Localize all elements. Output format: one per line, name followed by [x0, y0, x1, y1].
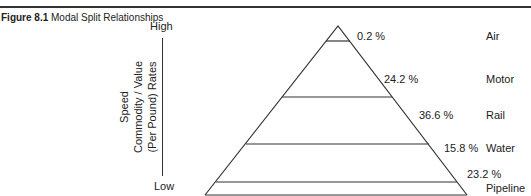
mode-water: Water — [486, 142, 515, 154]
pyramid-diagram — [0, 0, 531, 196]
pct-motor: 24.2 % — [384, 73, 418, 85]
mode-rail: Rail — [486, 109, 505, 121]
pct-air: 0.2 % — [357, 30, 385, 42]
mode-air: Air — [486, 30, 499, 42]
mode-motor: Motor — [486, 73, 514, 85]
pct-pipeline: 23.2 % — [467, 168, 501, 180]
mode-pipeline: Pipeline — [486, 182, 525, 194]
pct-rail: 36.6 % — [419, 109, 453, 121]
pct-water: 15.8 % — [444, 142, 478, 154]
